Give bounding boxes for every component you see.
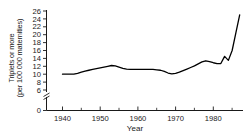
axis-break-icon <box>44 93 50 97</box>
x-axis-label-wrap: Year <box>0 124 248 133</box>
y-tick-label: 0 <box>37 106 41 115</box>
x-tick-label: 1940 <box>54 114 71 123</box>
data-series-line <box>63 15 240 74</box>
chart-svg: 26 24 22 20 18 16 14 12 10 8 6 0 <box>0 0 248 139</box>
x-tick-marks <box>63 107 214 111</box>
x-tick-label: 1960 <box>129 114 146 123</box>
chart-figure: Triplets or more (per 100 000 maternitie… <box>0 0 248 139</box>
x-axis-label: Year <box>127 124 144 133</box>
x-tick-labels: 1940 1950 1960 1970 1980 <box>54 114 222 123</box>
x-tick-label: 1980 <box>205 114 222 123</box>
x-tick-label: 1950 <box>92 114 109 123</box>
x-tick-label: 1970 <box>167 114 184 123</box>
y-tick-labels: 26 24 22 20 18 16 14 12 10 8 6 0 <box>33 7 41 116</box>
y-tick-label: 6 <box>37 86 41 95</box>
